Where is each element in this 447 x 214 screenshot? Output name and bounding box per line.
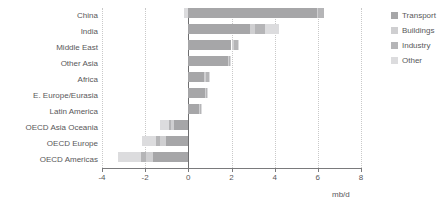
bar-row[interactable] [102, 136, 361, 152]
bar-segment[interactable] [118, 152, 142, 162]
legend-swatch-icon [391, 57, 398, 64]
bar-segment[interactable] [207, 88, 208, 98]
bar-row[interactable] [102, 24, 361, 40]
bar-segment[interactable] [188, 104, 198, 114]
bar-segment[interactable] [160, 136, 165, 146]
x-tick-label: 8 [349, 173, 373, 183]
x-tick-label: 6 [306, 173, 330, 183]
legend-item[interactable]: Industry [391, 38, 447, 53]
x-tick-mark [188, 168, 189, 172]
bar-segment[interactable] [188, 72, 204, 82]
bar-segment[interactable] [166, 136, 189, 146]
bar-row[interactable] [102, 88, 361, 104]
bar-segment[interactable] [141, 152, 146, 162]
legend-item[interactable]: Buildings [391, 23, 447, 38]
x-tick-mark [102, 168, 103, 172]
bar-segment[interactable] [209, 72, 211, 82]
bar-row[interactable] [102, 120, 361, 136]
bar-row[interactable] [102, 40, 361, 56]
bar-segment[interactable] [184, 8, 188, 18]
chart-root: mb/d TransportBuildingsIndustryOther -4-… [0, 0, 447, 214]
category-label: E. Europe/Eurasia [33, 91, 98, 101]
category-label: China [77, 11, 98, 21]
legend-swatch-icon [391, 42, 398, 49]
bar-row[interactable] [102, 72, 361, 88]
category-label: Other Asia [61, 59, 98, 69]
legend-label: Buildings [402, 26, 434, 36]
bar-row[interactable] [102, 152, 361, 168]
legend-label: Industry [402, 41, 430, 51]
bar-row[interactable] [102, 8, 361, 24]
legend-swatch-icon [391, 12, 398, 19]
legend-item[interactable]: Transport [391, 8, 447, 23]
chart-legend: TransportBuildingsIndustryOther [391, 8, 447, 68]
bar-segment[interactable] [238, 40, 239, 50]
legend-label: Other [402, 56, 422, 66]
category-label: Middle East [56, 43, 98, 53]
category-label: Latin America [50, 107, 98, 117]
bar-row[interactable] [102, 104, 361, 120]
x-tick-mark [232, 168, 233, 172]
x-axis-title: mb/d [332, 190, 350, 199]
bar-segment[interactable] [265, 24, 279, 34]
category-label: OECD Americas [40, 155, 98, 165]
bar-segment[interactable] [171, 120, 174, 130]
plot-area [102, 8, 361, 168]
x-tick-mark [145, 168, 146, 172]
bar-segment[interactable] [146, 152, 152, 162]
bar-segment[interactable] [188, 8, 316, 18]
bar-segment[interactable] [156, 136, 160, 146]
category-label: India [81, 27, 98, 37]
bar-segment[interactable] [255, 24, 265, 34]
bar-segment[interactable] [153, 152, 189, 162]
category-label: Africa [78, 75, 98, 85]
bar-segment[interactable] [169, 120, 171, 130]
category-label: OECD Asia Oceania [26, 123, 98, 133]
bar-segment[interactable] [142, 136, 156, 146]
x-tick-label: -4 [90, 173, 114, 183]
bar-segment[interactable] [188, 56, 228, 66]
category-label: OECD Europe [47, 139, 98, 149]
bar-segment[interactable] [201, 104, 202, 114]
legend-label: Transport [402, 11, 436, 21]
bar-segment[interactable] [230, 56, 231, 66]
bar-segment[interactable] [188, 40, 231, 50]
x-tick-label: -2 [133, 173, 157, 183]
x-tick-mark [361, 168, 362, 172]
bar-segment[interactable] [188, 88, 204, 98]
x-tick-label: 0 [176, 173, 200, 183]
bar-segment[interactable] [160, 120, 169, 130]
x-tick-label: 2 [220, 173, 244, 183]
bar-segment[interactable] [174, 120, 189, 130]
x-tick-label: 4 [263, 173, 287, 183]
legend-item[interactable]: Other [391, 53, 447, 68]
bar-segment[interactable] [188, 24, 250, 34]
x-tick-mark [275, 168, 276, 172]
gridline [361, 8, 362, 168]
bar-segment[interactable] [318, 8, 324, 18]
bar-row[interactable] [102, 56, 361, 72]
legend-swatch-icon [391, 27, 398, 34]
x-tick-mark [318, 168, 319, 172]
